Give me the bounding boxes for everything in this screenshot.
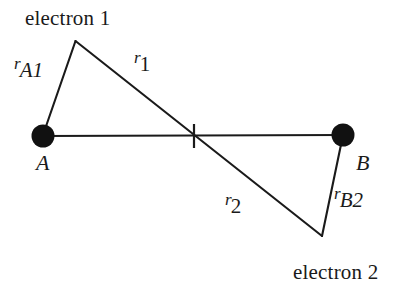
distance-label-r-1-subscript: 1 [140,52,151,76]
electron-1-label: electron 1 [25,8,110,29]
nucleus-b-dot [332,124,355,147]
distance-label-r-a1: rA1 [14,56,44,77]
distance-label-r-2-subscript: 2 [231,194,242,218]
segment-r-a1 [43,41,76,135]
nucleus-b-label: B [356,152,369,174]
segment-r1-r2 [76,41,323,236]
distance-label-r-b2: rB2 [334,186,364,207]
nucleus-a-dot [32,125,55,148]
distance-label-r-b2-subscript: B2 [340,188,363,212]
figure-root: electron 1 rA1 r1 A B r2 rB2 electron 2 [0,0,403,292]
nucleus-a-label: A [36,152,49,174]
distance-label-r-1: r1 [134,50,151,71]
distance-label-r-2: r2 [225,192,242,213]
diagram-canvas [0,0,403,292]
distance-label-r-a1-subscript: A1 [20,58,43,82]
electron-2-label: electron 2 [293,262,378,283]
